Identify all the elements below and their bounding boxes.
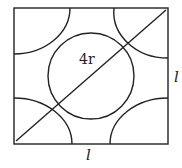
fcc-face-diagram [0, 0, 182, 168]
diagonal-label: 4r [79, 51, 95, 67]
corner-atom-bottom-right [110, 98, 168, 144]
corner-atom-top-left [14, 8, 70, 54]
bottom-side-label: l [86, 146, 91, 164]
face-diagonal-line [16, 10, 166, 141]
corner-atom-bottom-left [14, 98, 72, 144]
right-side-label: l [174, 68, 179, 86]
